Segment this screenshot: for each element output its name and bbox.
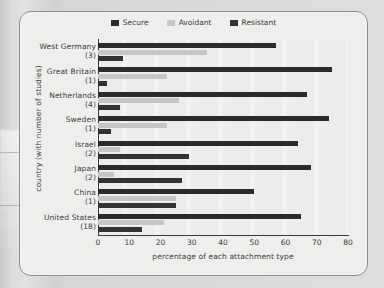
figure-card: Secure Avoidant Resistant bbox=[19, 11, 368, 276]
x-tick-label: 80 bbox=[336, 238, 360, 247]
bar-great-britain-avoidant bbox=[98, 74, 167, 79]
y-tick-study-count: (18) bbox=[22, 222, 96, 231]
bar-netherlands-secure bbox=[98, 92, 307, 97]
bar-group bbox=[98, 64, 348, 88]
x-tick-label: 50 bbox=[242, 238, 266, 247]
bar-group bbox=[98, 211, 348, 235]
bar-japan-avoidant bbox=[98, 172, 114, 177]
bar-israel-secure bbox=[98, 141, 298, 146]
bar-china-secure bbox=[98, 189, 254, 194]
bar-west-germany-secure bbox=[98, 43, 276, 48]
bar-netherlands-resistant bbox=[98, 105, 120, 110]
bar-sweden-secure bbox=[98, 116, 329, 121]
bar-west-germany-avoidant bbox=[98, 50, 207, 55]
bar-great-britain-resistant bbox=[98, 81, 107, 86]
bar-west-germany-resistant bbox=[98, 56, 123, 61]
y-tick-country: Israel bbox=[75, 140, 96, 149]
y-tick-label: United States(18) bbox=[22, 213, 96, 231]
y-tick-country: Sweden bbox=[66, 115, 96, 124]
y-axis-tick-labels: West Germany(3)Great Britain(1)Netherlan… bbox=[20, 12, 96, 275]
legend-label-resistant: Resistant bbox=[242, 18, 277, 27]
bar-united-states-avoidant bbox=[98, 220, 164, 225]
bar-china-resistant bbox=[98, 203, 176, 208]
x-tick-label: 30 bbox=[180, 238, 204, 247]
y-tick-country: Great Britain bbox=[47, 67, 96, 76]
scanned-page: Secure Avoidant Resistant bbox=[0, 0, 384, 288]
x-axis-title: percentage of each attachment type bbox=[98, 252, 348, 261]
x-tick-label: 20 bbox=[149, 238, 173, 247]
bar-group bbox=[98, 40, 348, 64]
bar-netherlands-avoidant bbox=[98, 98, 179, 103]
legend-item-secure: Secure bbox=[111, 18, 149, 27]
y-tick-country: United States bbox=[44, 213, 96, 222]
bar-chart: Secure Avoidant Resistant bbox=[20, 12, 367, 275]
x-tick-label: 0 bbox=[86, 238, 110, 247]
bar-group bbox=[98, 89, 348, 113]
legend-swatch-secure-icon bbox=[111, 20, 119, 26]
bar-israel-avoidant bbox=[98, 147, 120, 152]
bar-group bbox=[98, 186, 348, 210]
x-tick-label: 40 bbox=[211, 238, 235, 247]
y-tick-country: Netherlands bbox=[49, 91, 96, 100]
x-tick-label: 60 bbox=[274, 238, 298, 247]
legend-item-avoidant: Avoidant bbox=[167, 18, 212, 27]
bar-group bbox=[98, 138, 348, 162]
legend-swatch-avoidant-icon bbox=[167, 20, 175, 26]
legend-item-resistant: Resistant bbox=[230, 18, 277, 27]
bar-japan-secure bbox=[98, 165, 311, 170]
x-tick-label: 70 bbox=[305, 238, 329, 247]
legend-swatch-resistant-icon bbox=[230, 20, 238, 26]
bar-israel-resistant bbox=[98, 154, 189, 159]
y-tick-country: China bbox=[74, 188, 96, 197]
bar-united-states-resistant bbox=[98, 227, 142, 232]
x-axis-line bbox=[98, 235, 349, 236]
legend-label-secure: Secure bbox=[123, 18, 149, 27]
x-tick-label: 10 bbox=[117, 238, 141, 247]
y-axis-title: country (with number of studies) bbox=[34, 49, 43, 209]
legend-label-avoidant: Avoidant bbox=[179, 18, 212, 27]
bar-great-britain-secure bbox=[98, 67, 332, 72]
bar-group bbox=[98, 162, 348, 186]
bar-sweden-avoidant bbox=[98, 123, 167, 128]
bar-japan-resistant bbox=[98, 178, 182, 183]
y-tick-country: Japan bbox=[75, 164, 96, 173]
bar-china-avoidant bbox=[98, 196, 176, 201]
bar-united-states-secure bbox=[98, 214, 301, 219]
bar-sweden-resistant bbox=[98, 129, 111, 134]
y-tick-country: West Germany bbox=[40, 42, 97, 51]
bar-group bbox=[98, 113, 348, 137]
